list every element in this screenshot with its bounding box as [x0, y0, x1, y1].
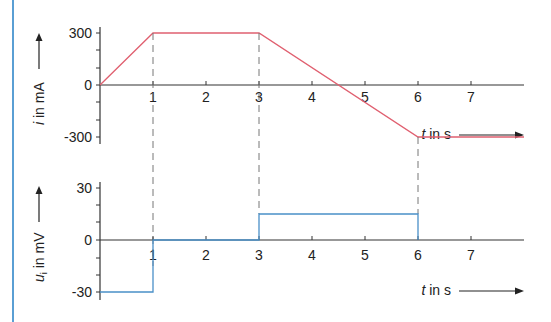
top-xtick-2: 2 [202, 89, 210, 105]
top-xtick-6: 6 [414, 89, 422, 105]
bottom-ytick-30: 30 [76, 180, 92, 196]
bottom-xtick-7: 7 [467, 247, 475, 263]
guide-lines [153, 33, 418, 266]
svg-text:i in mA: i in mA [31, 82, 47, 125]
top-ytick-0: 0 [84, 77, 92, 93]
arrow-right-icon [515, 288, 524, 295]
bottom-xtick-2: 2 [202, 247, 210, 263]
top-chart: 300 0 -300 1 2 3 4 5 6 7 i in mA t in s [31, 25, 524, 145]
top-x-label: t in s [421, 126, 524, 142]
top-ytick-neg300: -300 [64, 129, 92, 145]
bottom-xtick-4: 4 [308, 247, 316, 263]
top-xtick-7: 7 [467, 89, 475, 105]
bottom-xtick-6: 6 [414, 247, 422, 263]
svg-text:t in s: t in s [421, 282, 451, 298]
chart-figure: 300 0 -300 1 2 3 4 5 6 7 i in mA t in s [0, 0, 551, 322]
bottom-xtick-3: 3 [255, 247, 263, 263]
bottom-y-label: ui in mV [31, 186, 49, 282]
top-ytick-300: 300 [69, 25, 93, 41]
bottom-ytick-neg30: -30 [72, 284, 92, 300]
arrow-up-icon [36, 33, 43, 41]
bottom-x-label: t in s [421, 282, 524, 298]
top-xtick-4: 4 [308, 89, 316, 105]
svg-text:t in s: t in s [421, 126, 451, 142]
top-y-label: i in mA [31, 33, 47, 125]
arrow-up-icon [36, 186, 43, 194]
bottom-ytick-0: 0 [84, 232, 92, 248]
bottom-xtick-5: 5 [361, 247, 369, 263]
svg-text:ui in mV: ui in mV [31, 232, 49, 282]
bottom-chart: 30 0 -30 1 2 3 4 5 6 7 ui in mV t in s [31, 180, 524, 300]
